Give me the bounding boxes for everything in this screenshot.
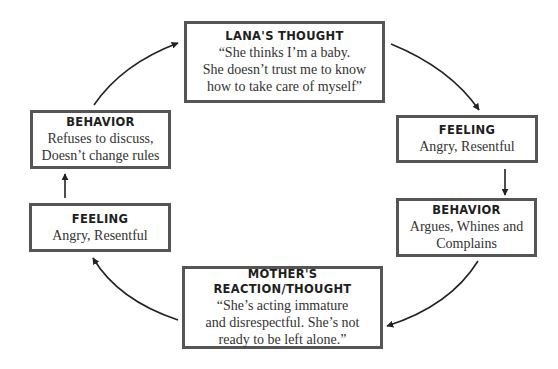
node-text-line: Complains bbox=[436, 235, 497, 252]
node-text-line: and disrespectful. She’s not bbox=[206, 314, 360, 331]
node-text-line: “She thinks I’m a baby. bbox=[219, 44, 351, 61]
node-text-line: Angry, Resentful bbox=[419, 138, 515, 155]
node-feeling-right: FEELING Angry, Resentful bbox=[396, 115, 538, 163]
node-text-line: She doesn’t trust me to know bbox=[203, 61, 366, 78]
node-behavior-left: BEHAVIOR Refuses to discuss, Doesn’t cha… bbox=[30, 110, 171, 169]
node-text-line: Argues, Whines and bbox=[410, 218, 523, 235]
node-text-line: Refuses to discuss, bbox=[47, 130, 153, 147]
node-text-line: ready to be left alone.” bbox=[219, 331, 347, 348]
node-title: FEELING bbox=[439, 123, 495, 138]
node-text-line: Doesn’t change rules bbox=[42, 147, 160, 164]
node-title: BEHAVIOR bbox=[432, 203, 501, 218]
node-lanas-thought: LANA'S THOUGHT “She thinks I’m a baby. S… bbox=[184, 21, 385, 103]
arrow-behavior-to-mother bbox=[387, 261, 478, 326]
node-text-line: “She’s acting immature bbox=[217, 297, 348, 314]
node-text-line: Angry, Resentful bbox=[52, 227, 148, 244]
node-title: FEELING bbox=[72, 212, 128, 227]
cycle-diagram: LANA'S THOUGHT “She thinks I’m a baby. S… bbox=[0, 0, 558, 369]
arrow-thought-to-feeling bbox=[391, 44, 479, 110]
node-mothers-reaction: MOTHER'S REACTION/THOUGHT “She’s acting … bbox=[182, 266, 383, 349]
node-title: MOTHER'S REACTION/THOUGHT bbox=[185, 267, 380, 297]
arrow-mother-to-feeling bbox=[93, 258, 178, 320]
node-title: LANA'S THOUGHT bbox=[225, 29, 343, 44]
node-feeling-left: FEELING Angry, Resentful bbox=[29, 203, 171, 252]
node-behavior-right: BEHAVIOR Argues, Whines and Complains bbox=[396, 198, 537, 257]
node-text-line: how to take care of myself” bbox=[207, 78, 362, 95]
node-title: BEHAVIOR bbox=[66, 115, 135, 130]
arrow-behavior-to-thought bbox=[94, 43, 178, 105]
